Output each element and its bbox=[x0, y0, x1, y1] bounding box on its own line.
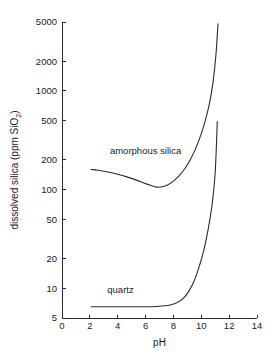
y-tick-label: 5 bbox=[52, 312, 57, 323]
y-tick-label: 500 bbox=[41, 115, 57, 126]
y-axis-title-tail: ) bbox=[9, 111, 20, 114]
y-tick-label: 5000 bbox=[36, 16, 57, 27]
x-tick-label: 12 bbox=[224, 320, 235, 331]
x-tick-label: 4 bbox=[115, 320, 120, 331]
series-label-quartz: quartz bbox=[107, 284, 134, 295]
silica-solubility-chart: 5102050100200500100020005000 02468101214… bbox=[0, 0, 276, 355]
series-curves bbox=[91, 24, 218, 307]
y-tick-label: 10 bbox=[46, 283, 57, 294]
y-tick-label: 100 bbox=[41, 184, 57, 195]
x-axis-ticks: 02468101214 bbox=[59, 315, 262, 332]
y-axis-title-main: dissolved silica (ppm SiO bbox=[9, 118, 20, 230]
x-tick-label: 8 bbox=[171, 320, 176, 331]
x-tick-label: 14 bbox=[252, 320, 263, 331]
y-tick-label: 20 bbox=[46, 253, 57, 264]
series-annotations: amorphous silicaquartz bbox=[107, 145, 182, 295]
svg-text:dissolved silica (ppm SiO2): dissolved silica (ppm SiO2) bbox=[9, 111, 22, 230]
chart-figure: 5102050100200500100020005000 02468101214… bbox=[0, 0, 276, 355]
y-tick-label: 2000 bbox=[36, 56, 57, 67]
y-tick-label: 50 bbox=[46, 214, 57, 225]
x-tick-label: 10 bbox=[196, 320, 207, 331]
y-axis-ticks: 5102050100200500100020005000 bbox=[36, 16, 66, 323]
x-tick-label: 2 bbox=[87, 320, 92, 331]
series-curve-amorphous-silica bbox=[91, 24, 218, 187]
y-axis-title: dissolved silica (ppm SiO2) bbox=[9, 111, 22, 230]
x-tick-label: 6 bbox=[143, 320, 148, 331]
x-axis-title: pH bbox=[153, 337, 166, 348]
y-tick-label: 200 bbox=[41, 154, 57, 165]
y-tick-label: 1000 bbox=[36, 85, 57, 96]
x-tick-label: 0 bbox=[59, 320, 64, 331]
series-label-amorphous-silica: amorphous silica bbox=[110, 145, 182, 156]
